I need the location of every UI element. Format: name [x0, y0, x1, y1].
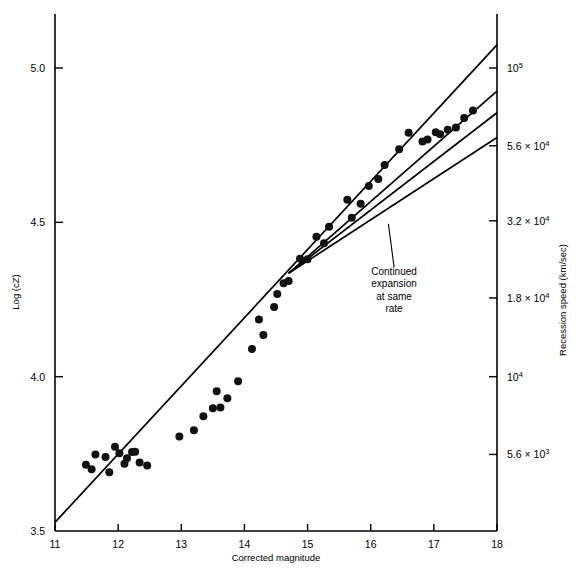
- data-point: [325, 223, 333, 231]
- data-point: [312, 233, 320, 241]
- data-point: [320, 239, 328, 247]
- data-point: [444, 126, 452, 134]
- data-point: [199, 412, 207, 420]
- y2-tick-label: 3.2 × 104: [507, 214, 549, 227]
- y2-tick-label: 1.8 × 104: [507, 291, 549, 304]
- data-point: [102, 453, 110, 461]
- x-tick-label: 11: [50, 538, 61, 550]
- data-point: [88, 465, 96, 473]
- data-point: [175, 433, 183, 441]
- x-axis-title: Corrected magnitude: [232, 552, 321, 563]
- data-point: [91, 450, 99, 458]
- continued-expansion-note-line: expansion: [371, 278, 417, 289]
- data-point: [405, 129, 413, 137]
- data-point: [348, 214, 356, 222]
- data-point: [143, 462, 151, 470]
- data-point: [424, 136, 432, 144]
- x-tick-label: 12: [112, 538, 124, 550]
- y2-axis-title: Recession speed (km/sec): [557, 244, 568, 356]
- continued-expansion-note-line: rate: [385, 303, 403, 314]
- data-point: [213, 387, 221, 395]
- data-point: [136, 458, 144, 466]
- data-point: [357, 200, 365, 208]
- x-tick-label: 15: [302, 538, 314, 550]
- data-point: [223, 394, 231, 402]
- data-point: [209, 404, 217, 412]
- y-tick-label: 5.0: [30, 62, 45, 74]
- data-point: [285, 277, 293, 285]
- data-point: [234, 377, 242, 385]
- hubble-diagram-svg: 1112131415161718 3.54.04.55.0 5.6 × 1031…: [0, 0, 578, 574]
- x-tick-label: 14: [239, 538, 251, 550]
- x-tick-label: 16: [365, 538, 377, 550]
- data-point: [374, 175, 382, 183]
- data-point: [115, 449, 123, 457]
- data-point: [105, 468, 113, 476]
- data-point: [296, 255, 304, 263]
- x-tick-label: 18: [491, 538, 503, 550]
- scatter-plot-figure: 1112131415161718 3.54.04.55.0 5.6 × 1031…: [0, 0, 578, 574]
- data-point: [460, 114, 468, 122]
- data-point: [469, 107, 477, 115]
- data-point: [452, 124, 460, 132]
- data-point: [273, 290, 281, 298]
- y-tick-label: 3.5: [30, 525, 45, 537]
- data-point: [111, 443, 119, 451]
- data-point: [395, 145, 403, 153]
- data-point: [365, 182, 373, 190]
- y-axis-title: Log (cZ): [10, 274, 21, 309]
- data-point: [436, 130, 444, 138]
- data-point: [259, 331, 267, 339]
- y-tick-label: 4.5: [30, 216, 45, 228]
- data-point: [131, 448, 139, 456]
- y2-tick-label: 5.6 × 103: [507, 447, 549, 460]
- x-tick-label: 17: [428, 538, 440, 550]
- data-point: [255, 316, 263, 324]
- data-point: [304, 255, 312, 263]
- data-point: [381, 161, 389, 169]
- y2-tick-label: 5.6 × 104: [507, 139, 549, 152]
- continued-expansion-note-line: at same: [376, 291, 412, 302]
- data-point: [123, 454, 131, 462]
- data-point: [343, 196, 351, 204]
- data-point: [190, 426, 198, 434]
- data-point: [248, 345, 256, 353]
- x-tick-label: 13: [175, 538, 187, 550]
- y-tick-label: 4.0: [30, 371, 45, 383]
- data-point: [270, 303, 278, 311]
- data-point: [216, 404, 224, 412]
- continued-expansion-note-line: Continued: [371, 266, 417, 277]
